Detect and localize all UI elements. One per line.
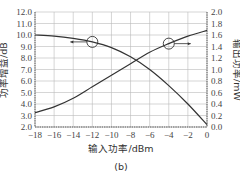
y-left-tick-label: 12.0 — [16, 7, 32, 17]
x-tick-label: −8 — [126, 130, 136, 140]
arrow-head-icon — [188, 42, 191, 45]
y-left-tick-label: 3.0 — [21, 111, 33, 121]
y-left-tick-label: 6.0 — [21, 76, 33, 86]
caption: (b) — [114, 161, 127, 172]
x-tick-label: 0 — [205, 130, 210, 140]
x-tick-label: −10 — [104, 130, 119, 140]
y-right-tick-label: 0.0 — [211, 122, 223, 132]
x-tick-label: −4 — [164, 130, 174, 140]
y-right-tick-label: 2.0 — [211, 7, 223, 17]
y-left-tick-label: 9.0 — [21, 42, 33, 52]
y-right-tick-label: 0.2 — [211, 111, 222, 121]
y-left-tick-label: 11.0 — [17, 19, 33, 29]
y-right-tick-label: 0.4 — [211, 99, 223, 109]
y-right-tick-label: 0.6 — [211, 88, 223, 98]
y-right-tick-label: 1.0 — [211, 65, 223, 75]
y-left-tick-label: 2.0 — [21, 122, 33, 132]
series-left — [35, 35, 207, 125]
x-tick-label: −12 — [85, 130, 99, 140]
y-right-axis-label: 输出功率/mW — [232, 39, 240, 101]
y-left-tick-label: 8.0 — [21, 53, 33, 63]
x-tick-label: −6 — [145, 130, 155, 140]
x-tick-label: −2 — [183, 130, 193, 140]
curves — [35, 30, 207, 124]
y-right-tick-label: 0.8 — [211, 76, 223, 86]
y-left-tick-label: 7.0 — [21, 65, 33, 75]
tick-labels: −18−16−14−12−10−8−6−4−202.03.04.05.06.07… — [16, 7, 223, 140]
y-left-tick-label: 5.0 — [21, 88, 33, 98]
x-axis-label: 输入功率/dBm — [88, 143, 153, 154]
series-right — [35, 30, 207, 112]
arrow-head-icon — [70, 40, 73, 43]
y-right-tick-label: 1.4 — [211, 42, 223, 52]
y-left-axis-label: 功率增益/dB — [0, 42, 9, 98]
y-left-tick-label: 4.0 — [21, 99, 33, 109]
y-right-tick-label: 1.2 — [211, 53, 222, 63]
y-left-tick-label: 10.0 — [16, 30, 32, 40]
y-right-tick-label: 1.6 — [211, 30, 223, 40]
x-tick-label: −16 — [47, 130, 62, 140]
dual-axis-line-chart: −18−16−14−12−10−8−6−4−202.03.04.05.06.07… — [0, 0, 240, 178]
y-right-tick-label: 1.8 — [211, 19, 223, 29]
x-tick-label: −14 — [66, 130, 81, 140]
